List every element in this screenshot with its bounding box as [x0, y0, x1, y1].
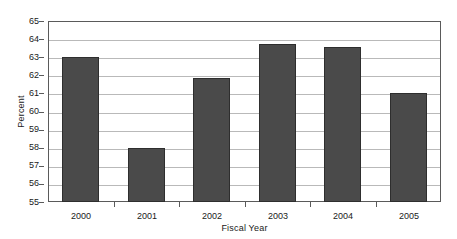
y-tick-label: 60 [29, 106, 39, 117]
y-tick-mark [39, 130, 44, 131]
gridline [49, 58, 440, 59]
y-tick-label: 63 [29, 52, 39, 63]
gridline [49, 76, 440, 77]
y-tick-mark [39, 75, 44, 76]
gridline [49, 40, 440, 41]
x-tick-mark [376, 202, 377, 207]
y-tick-mark [39, 93, 44, 94]
x-tick-label: 2000 [48, 210, 114, 222]
x-tick-label: 2001 [114, 210, 180, 222]
y-tick-mark [39, 39, 44, 40]
x-axis-ticks: 200020012002200320042005 [48, 202, 441, 222]
y-tick-label: 56 [29, 178, 39, 189]
y-tick-label: 65 [29, 16, 39, 27]
y-tick-label: 61 [29, 88, 39, 99]
y-tick-label: 59 [29, 124, 39, 135]
gridline [49, 149, 440, 150]
x-tick-label: 2003 [245, 210, 311, 222]
y-tick-mark [39, 184, 44, 185]
y-tick-mark [39, 202, 44, 203]
y-tick-mark [39, 21, 44, 22]
gridline [49, 185, 440, 186]
gridline [49, 113, 440, 114]
gridline [49, 94, 440, 95]
plot-area [48, 21, 441, 202]
y-tick-mark [39, 112, 44, 113]
y-tick-mark [39, 148, 44, 149]
x-tick-label: 2004 [310, 210, 376, 222]
y-tick-label: 64 [29, 34, 39, 45]
x-tick-mark [245, 202, 246, 207]
y-axis-ticks: 5556575859606162636465 [0, 0, 48, 239]
y-tick-label: 57 [29, 160, 39, 171]
bar-chart: Percent 5556575859606162636465 200020012… [0, 0, 457, 239]
gridline [49, 167, 440, 168]
x-tick-mark [114, 202, 115, 207]
y-tick-label: 58 [29, 142, 39, 153]
x-tick-mark [179, 202, 180, 207]
x-tick-label: 2005 [376, 210, 442, 222]
y-tick-mark [39, 166, 44, 167]
gridlines [49, 22, 440, 201]
x-tick-label: 2002 [179, 210, 245, 222]
x-axis-title: Fiscal Year [48, 222, 441, 234]
y-tick-label: 55 [29, 197, 39, 208]
y-tick-label: 62 [29, 70, 39, 81]
y-tick-mark [39, 57, 44, 58]
gridline [49, 131, 440, 132]
x-tick-mark [310, 202, 311, 207]
